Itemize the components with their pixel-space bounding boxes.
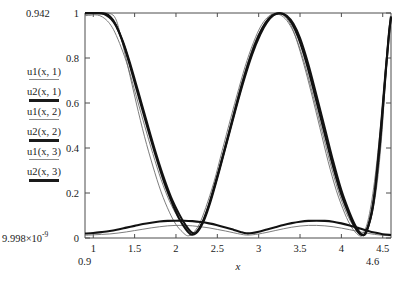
x-axis-tick-label: 3 bbox=[256, 243, 261, 254]
x-axis-tick-label: 2 bbox=[173, 243, 178, 254]
y-axis-tick-label: 0 bbox=[74, 233, 79, 244]
x-axis-tick-label: 2.5 bbox=[211, 243, 224, 254]
plot-svg: 11.522.533.544.500.20.40.60.81 x bbox=[0, 0, 409, 293]
data-curves bbox=[85, 13, 391, 236]
plot-canvas[interactable]: 11.522.533.544.500.20.40.60.81 x bbox=[0, 0, 409, 293]
plot-widget: u1(x, 1)u2(x, 1)u1(x, 2)u2(x, 2)u1(x, 3)… bbox=[0, 0, 409, 293]
x-axis-tick-label: 3.5 bbox=[293, 243, 306, 254]
x-axis-tick-label: 4.5 bbox=[376, 243, 389, 254]
x-axis-title: x bbox=[235, 260, 241, 272]
x-axis-tick-label: 4 bbox=[339, 243, 345, 254]
y-axis-tick-label: 0.2 bbox=[66, 188, 79, 199]
x-axis-tick-label: 1.5 bbox=[128, 243, 141, 254]
y-axis-tick-label: 0.8 bbox=[66, 53, 79, 64]
y-axis-tick-label: 0.6 bbox=[66, 98, 79, 109]
y-axis-tick-label: 1 bbox=[74, 8, 79, 19]
data-curve-u2-x-3- bbox=[85, 221, 391, 235]
x-axis-tick-label: 1 bbox=[91, 243, 96, 254]
data-curve-u2-x-2- bbox=[85, 13, 391, 235]
y-axis-tick-label: 0.4 bbox=[66, 143, 80, 154]
